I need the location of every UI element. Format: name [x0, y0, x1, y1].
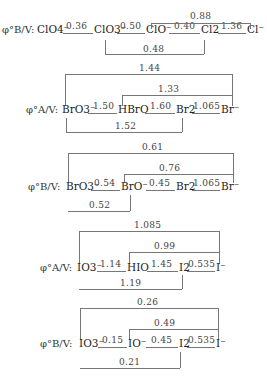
- bracket-tick: [218, 308, 219, 340]
- bracket-tick: [232, 74, 233, 106]
- species-hio: HIO: [127, 261, 149, 273]
- bracket-tick: [80, 308, 81, 340]
- potential-label: φ°A/V:: [26, 104, 58, 115]
- bracket-tick: [151, 23, 152, 29]
- bracket-line: [66, 132, 182, 133]
- bracket-tick: [68, 153, 69, 183]
- step-line: [63, 33, 93, 34]
- bracket-value: 0.49: [154, 318, 175, 328]
- step-line: [145, 113, 175, 114]
- species-br-minus: Br⁻: [221, 180, 239, 192]
- step-value: 0.45: [151, 335, 172, 345]
- species-br-minus: Br⁻: [221, 103, 239, 115]
- bracket-line: [68, 211, 130, 212]
- bracket-tick: [130, 195, 131, 211]
- step-value: 1.14: [100, 259, 121, 269]
- step-value: 0.54: [94, 178, 115, 188]
- bracket-tick: [79, 231, 80, 264]
- step-line: [88, 113, 117, 114]
- bracket-tick: [65, 74, 66, 106]
- bracket-line: [122, 95, 232, 96]
- species-i-minus: I⁻: [216, 261, 226, 273]
- potential-label: φ°B/V:: [28, 181, 60, 192]
- step-line: [192, 113, 220, 114]
- bracket-tick: [204, 40, 205, 54]
- species-i-minus: I⁻: [216, 337, 226, 349]
- bracket-value: 0.52: [89, 200, 110, 210]
- step-value: 0.535: [188, 259, 215, 269]
- bracket-value: 0.61: [142, 142, 163, 152]
- step-line: [187, 347, 215, 348]
- step-line: [117, 33, 145, 34]
- step-line: [218, 33, 246, 34]
- step-value: 1.50: [93, 101, 114, 111]
- bracket-value: 0.88: [190, 11, 211, 21]
- bracket-tick: [105, 40, 106, 54]
- bracket-line: [79, 289, 182, 290]
- potential-label: φ°B/V:: [2, 24, 34, 35]
- step-line: [187, 271, 215, 272]
- step-value: 1.065: [193, 178, 220, 188]
- step-value: 1.45: [151, 259, 172, 269]
- step-value: 1.065: [193, 101, 220, 111]
- species-bro: BrO⁻: [121, 180, 148, 192]
- potential-label: φ°B/V:: [40, 338, 72, 349]
- step-value: 1.60: [150, 101, 171, 111]
- bracket-value: 0.26: [137, 297, 158, 307]
- potential-label: φ°A/V:: [40, 262, 72, 273]
- step-value: 0.45: [149, 178, 170, 188]
- bracket-tick: [219, 231, 220, 264]
- bracket-line: [68, 153, 233, 154]
- species-cl2: Cl2: [201, 23, 219, 35]
- step-line: [147, 271, 178, 272]
- step-line: [91, 190, 120, 191]
- step-value: 0.36: [66, 21, 87, 31]
- bracket-tick: [182, 275, 183, 289]
- bracket-line: [151, 23, 250, 24]
- bracket-line: [80, 308, 218, 309]
- bracket-line: [105, 54, 204, 55]
- step-line: [146, 347, 178, 348]
- bracket-value: 0.99: [154, 241, 175, 251]
- bracket-value: 0.48: [143, 44, 164, 54]
- bracket-tick: [180, 352, 181, 368]
- step-line: [97, 271, 126, 272]
- step-line: [98, 347, 127, 348]
- bracket-line: [129, 329, 218, 330]
- bracket-line: [124, 174, 233, 175]
- bracket-value: 1.33: [158, 84, 179, 94]
- bracket-value: 1.085: [134, 220, 161, 230]
- step-value: 0.50: [120, 21, 141, 31]
- bracket-tick: [233, 153, 234, 183]
- bracket-value: 0.76: [159, 163, 180, 173]
- species-hbro: HBrO: [118, 103, 149, 115]
- bracket-tick: [66, 118, 67, 132]
- bracket-value: 1.19: [120, 278, 141, 288]
- step-line: [192, 190, 220, 191]
- step-line: [146, 190, 175, 191]
- bracket-tick: [250, 23, 251, 29]
- species-io: IO⁻: [128, 337, 146, 349]
- bracket-value: 1.52: [115, 121, 136, 131]
- bracket-line: [79, 231, 219, 232]
- bracket-value: 0.21: [119, 357, 140, 367]
- bracket-value: 1.44: [139, 63, 160, 73]
- bracket-line: [65, 74, 232, 75]
- step-line: [169, 33, 200, 34]
- bracket-line: [80, 368, 180, 369]
- step-value: 0.535: [188, 335, 215, 345]
- bracket-line: [129, 252, 219, 253]
- species-clo: ClO⁻: [146, 23, 172, 35]
- step-value: 0.15: [102, 335, 123, 345]
- bracket-tick: [182, 118, 183, 132]
